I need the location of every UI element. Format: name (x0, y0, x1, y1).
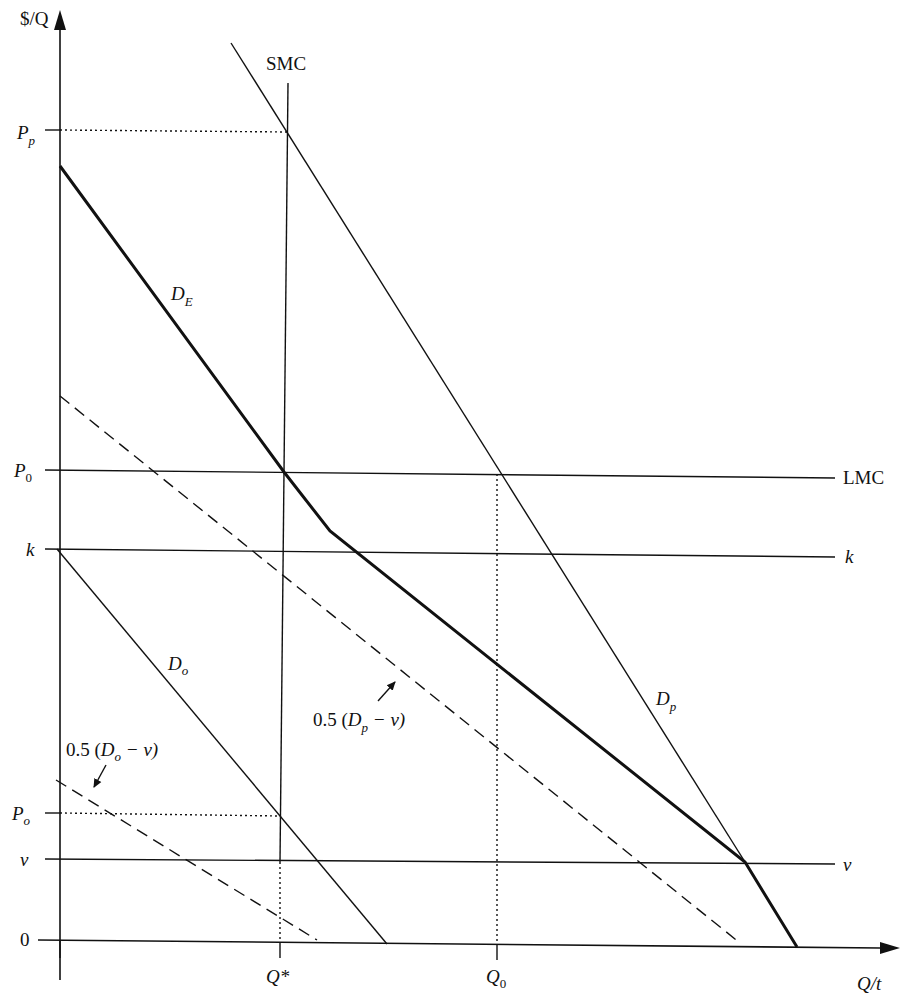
y-tick-zero: 0 (20, 929, 30, 950)
x-axis (38, 940, 900, 954)
x-axis-arrow-icon (880, 942, 900, 954)
half-dp-arrow-icon (378, 682, 395, 701)
x-tick-q0: Q0 (486, 966, 506, 991)
pp-guide (60, 130, 287, 132)
y-tick-pp: Pp (16, 122, 36, 148)
lmc-label: LMC (843, 467, 884, 488)
y-tick-v: v (20, 849, 29, 870)
x-axis-label: Q/t (857, 973, 882, 994)
smc-label: SMC (266, 53, 306, 74)
x-tick-qstar: Q* (266, 966, 290, 987)
half-dp-minus-v-label: 0.5 (Dp − v) (313, 709, 405, 735)
y-axis (54, 10, 66, 980)
y-axis-label: $/Q (20, 8, 49, 29)
do-label: Do (167, 653, 189, 678)
de-label: DE (170, 283, 193, 309)
dp-curve (231, 43, 745, 862)
v-line-label: v (843, 854, 852, 875)
k-line (45, 549, 835, 557)
y-tick-po: Po (11, 803, 31, 828)
economics-diagram: $/Q Q/t Pp P0 k Po v 0 Q* Q0 SMC LMC k v… (0, 0, 910, 1001)
dp-label: Dp (655, 688, 677, 714)
y-tick-p0: P0 (13, 460, 32, 485)
k-line-label: k (845, 546, 854, 567)
y-tick-k: k (26, 539, 35, 560)
po-guide (60, 813, 280, 816)
half-do-minus-v-label: 0.5 (Do − v) (66, 739, 158, 764)
half-do-arrow-icon (94, 765, 106, 787)
lmc-line (45, 470, 835, 478)
y-axis-arrow-icon (54, 10, 66, 30)
v-line (45, 859, 835, 864)
